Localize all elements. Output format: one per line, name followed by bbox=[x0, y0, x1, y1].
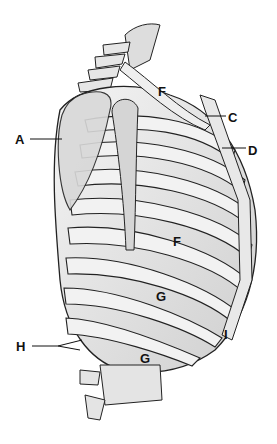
label-g-lower: G bbox=[140, 352, 150, 365]
label-i: I bbox=[224, 328, 228, 341]
label-f-upper: F bbox=[158, 85, 166, 98]
label-g-upper: G bbox=[156, 290, 166, 303]
label-a: A bbox=[15, 133, 24, 146]
rib-cage-diagram: A F C D F G I H G bbox=[0, 0, 277, 444]
lumbar-spine bbox=[80, 365, 162, 420]
label-c: C bbox=[228, 111, 237, 124]
label-d: D bbox=[248, 144, 257, 157]
label-h: H bbox=[16, 340, 25, 353]
label-f-lower: F bbox=[173, 235, 181, 248]
rib-cage-illustration bbox=[0, 0, 277, 444]
